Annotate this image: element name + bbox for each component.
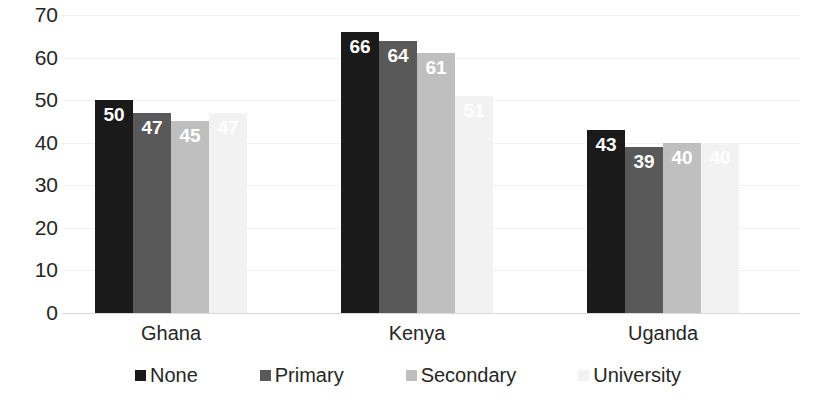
legend-label: University — [593, 363, 681, 387]
x-axis-baseline — [62, 313, 800, 314]
bar-value-label: 64 — [379, 45, 417, 66]
y-axis-tick-label: 20 — [4, 217, 58, 238]
bar[interactable]: 47 — [209, 113, 247, 313]
bar[interactable]: 40 — [663, 143, 701, 313]
bar[interactable]: 64 — [379, 41, 417, 313]
y-axis-tick-label: 30 — [4, 174, 58, 195]
bar-group: 43394040 — [587, 15, 739, 313]
bar[interactable]: 39 — [625, 147, 663, 313]
x-axis-category-label: Uganda — [587, 321, 739, 345]
y-axis-tick-label: 10 — [4, 259, 58, 280]
bar[interactable]: 50 — [95, 100, 133, 313]
bar-value-label: 47 — [133, 117, 171, 138]
bar[interactable]: 43 — [587, 130, 625, 313]
x-axis-category-label: Kenya — [341, 321, 493, 345]
legend-item[interactable]: University — [578, 363, 681, 387]
y-axis-tick-label: 60 — [4, 47, 58, 68]
bar-group: 66646151 — [341, 15, 493, 313]
y-axis-tick-label: 70 — [4, 4, 58, 25]
legend-item[interactable]: Secondary — [406, 363, 517, 387]
x-axis-category-label: Ghana — [95, 321, 247, 345]
legend-item[interactable]: None — [135, 363, 198, 387]
legend-label: Primary — [275, 363, 344, 387]
legend-swatch-icon — [406, 370, 417, 381]
bar[interactable]: 66 — [341, 32, 379, 313]
bar-group: 50474547 — [95, 15, 247, 313]
legend-swatch-icon — [260, 370, 271, 381]
bar-value-label: 61 — [417, 57, 455, 78]
y-axis: 706050403020100 — [0, 0, 58, 406]
bar-value-label: 66 — [341, 36, 379, 57]
bar[interactable]: 51 — [455, 96, 493, 313]
bar-value-label: 50 — [95, 104, 133, 125]
bar-value-label: 47 — [209, 117, 247, 138]
chart-legend: NonePrimarySecondaryUniversity — [0, 363, 816, 387]
legend-label: Secondary — [421, 363, 517, 387]
legend-label: None — [150, 363, 198, 387]
bar[interactable]: 40 — [701, 143, 739, 313]
bar-value-label: 39 — [625, 151, 663, 172]
legend-swatch-icon — [135, 370, 146, 381]
bar[interactable]: 61 — [417, 53, 455, 313]
bar[interactable]: 45 — [171, 121, 209, 313]
bar-value-label: 40 — [663, 147, 701, 168]
legend-swatch-icon — [578, 370, 589, 381]
y-axis-tick-label: 40 — [4, 132, 58, 153]
y-axis-tick-label: 0 — [4, 302, 58, 323]
bar-chart: 706050403020100 504745476664615143394040… — [0, 0, 816, 406]
bar-value-label: 51 — [455, 100, 493, 121]
plot-area: 504745476664615143394040 — [62, 15, 800, 313]
bar[interactable]: 47 — [133, 113, 171, 313]
scan-artifact-strip — [0, 0, 816, 7]
y-axis-tick-label: 50 — [4, 89, 58, 110]
bar-value-label: 43 — [587, 134, 625, 155]
bar-value-label: 45 — [171, 125, 209, 146]
legend-item[interactable]: Primary — [260, 363, 344, 387]
bar-value-label: 40 — [701, 147, 739, 168]
